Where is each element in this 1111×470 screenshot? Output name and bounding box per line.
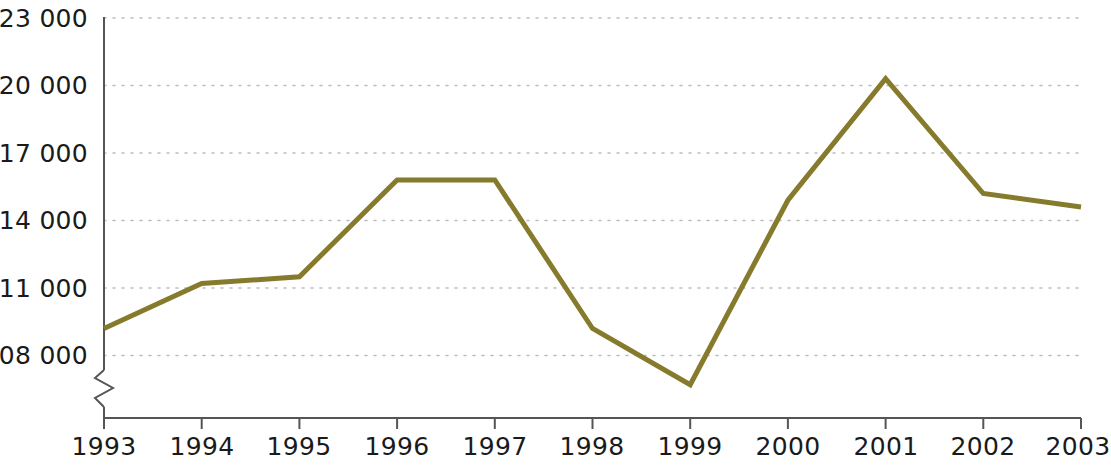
xtick-label-2003: 2003 [1046, 432, 1111, 461]
xtick-label-2002: 2002 [951, 432, 1016, 461]
ytick-text: 108 000 [0, 341, 88, 370]
ytick-text: 120 000 [0, 71, 88, 100]
xtick-label-1997: 1997 [463, 432, 528, 461]
line-chart: 123 000 120 000 117 000 114 000 111 000 … [0, 0, 1111, 470]
xtick-label-1993: 1993 [72, 432, 137, 461]
ytick-label-120000: 120 000 [0, 71, 88, 101]
gridlines [104, 18, 1085, 356]
ytick-text: 117 000 [0, 139, 88, 168]
xtick-label-2000: 2000 [756, 432, 821, 461]
ytick-text: 114 000 [0, 206, 88, 235]
data-series-line [104, 79, 1081, 385]
ytick-label-108000: 108 000 [0, 341, 88, 371]
xtick-label-2001: 2001 [854, 432, 919, 461]
xtick-label-1995: 1995 [267, 432, 332, 461]
xtick-label-1996: 1996 [365, 432, 430, 461]
xtick-label-1994: 1994 [170, 432, 235, 461]
ytick-label-111000: 111 000 [0, 274, 88, 304]
chart-canvas [0, 0, 1111, 470]
ytick-label-123000: 123 000 [0, 4, 88, 34]
ytick-text: 123 000 [0, 4, 88, 33]
xtick-label-1999: 1999 [658, 432, 723, 461]
ytick-label-117000: 117 000 [0, 139, 88, 169]
ytick-text: 111 000 [0, 274, 88, 303]
axis-break-zigzag [95, 370, 113, 407]
ytick-label-114000: 114 000 [0, 206, 88, 236]
xtick-label-1998: 1998 [560, 432, 625, 461]
x-axis-ticks [104, 418, 1081, 429]
